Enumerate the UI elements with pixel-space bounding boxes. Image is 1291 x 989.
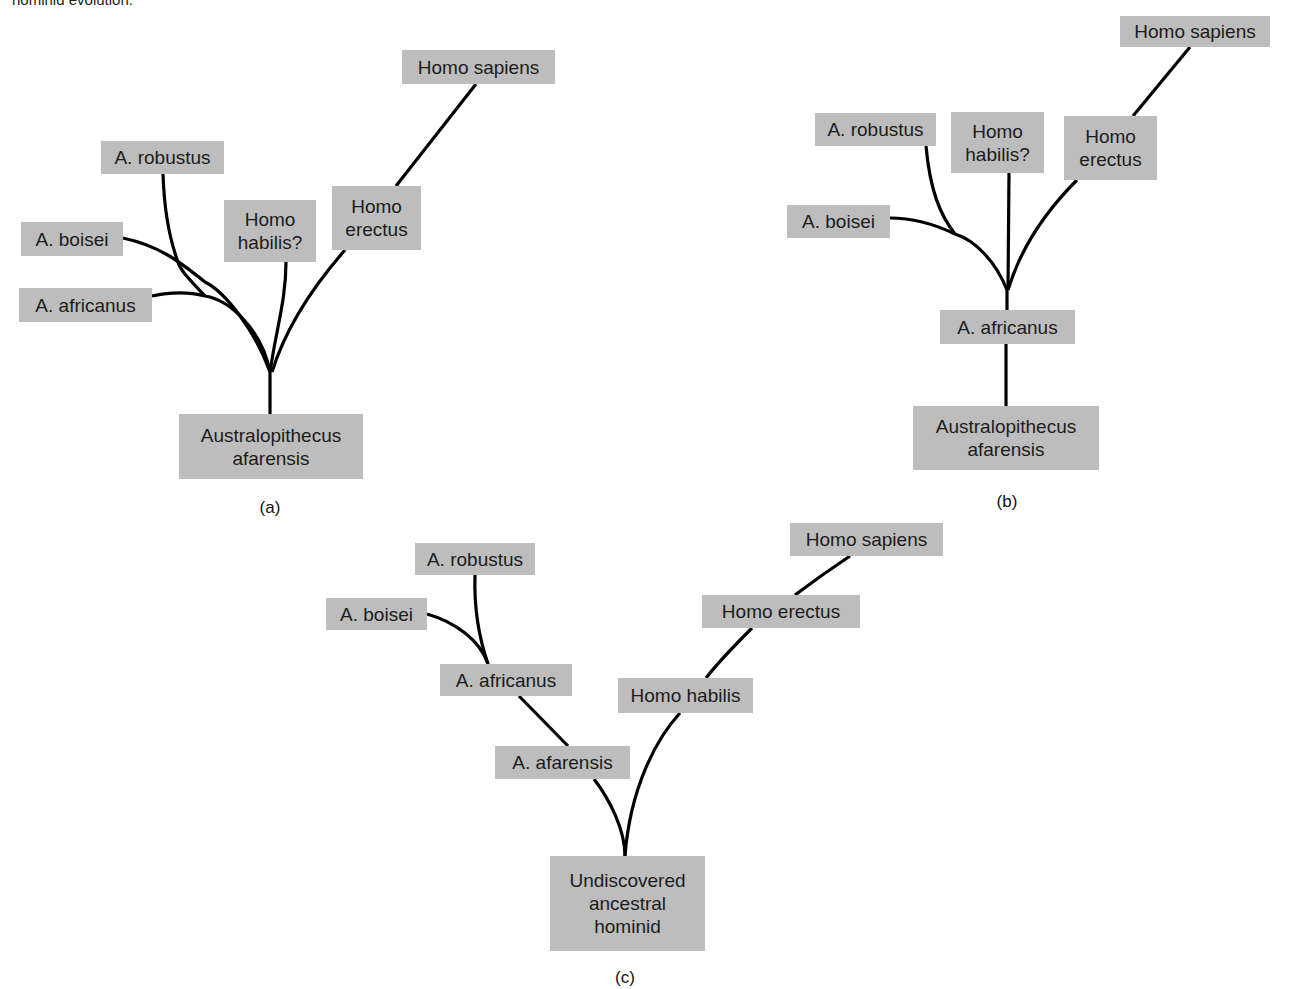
node-a-africanus: A. africanus [19, 288, 152, 322]
node-b-africanus: A. africanus [940, 310, 1075, 344]
panel-b-branches [890, 47, 1190, 406]
node-c-homo-habilis: Homo habilis [618, 678, 753, 713]
node-a-homo-erectus: Homo erectus [332, 186, 421, 250]
node-b-australopithecus-afarensis: Australopithecus afarensis [913, 406, 1099, 470]
caption-a: (a) [260, 498, 281, 518]
node-b-homo-erectus: Homo erectus [1064, 116, 1157, 180]
node-c-boisei: A. boisei [326, 598, 427, 630]
node-c-robustus: A. robustus [415, 543, 535, 575]
node-c-undiscovered-ancestor: Undiscovered ancestral hominid [550, 856, 705, 951]
node-c-africanus: A. africanus [440, 664, 572, 696]
caption-c: (c) [615, 968, 635, 988]
caption-b: (b) [997, 492, 1018, 512]
node-a-boisei: A. boisei [21, 222, 123, 256]
node-c-homo-erectus: Homo erectus [702, 595, 860, 628]
node-b-homo-habilis: Homo habilis? [951, 112, 1044, 173]
node-c-afarensis: A. afarensis [495, 746, 630, 779]
node-c-homo-sapiens: Homo sapiens [790, 523, 943, 556]
node-b-boisei: A. boisei [787, 205, 890, 238]
node-b-robustus: A. robustus [815, 113, 936, 146]
node-b-homo-sapiens: Homo sapiens [1120, 16, 1270, 47]
node-a-homo-sapiens: Homo sapiens [402, 50, 555, 84]
node-a-robustus: A. robustus [101, 141, 224, 174]
node-a-australopithecus-afarensis: Australopithecus afarensis [179, 414, 363, 479]
node-a-homo-habilis: Homo habilis? [224, 200, 316, 262]
